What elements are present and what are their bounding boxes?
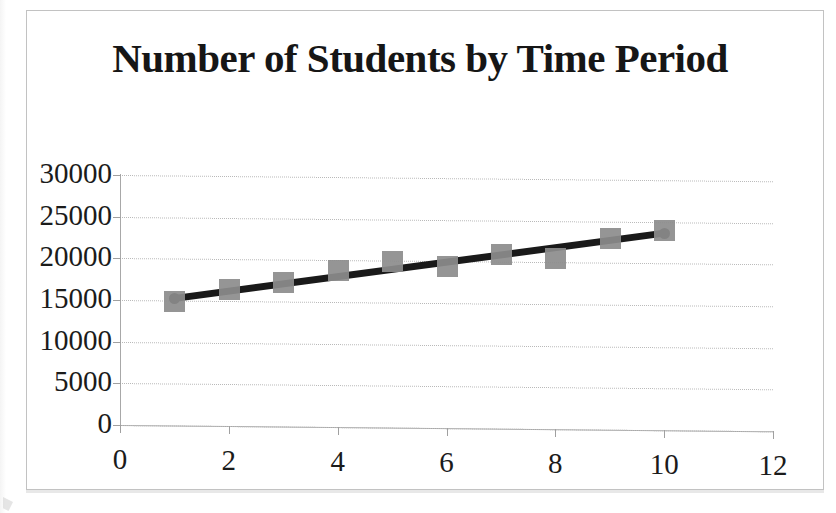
x-axis-tick	[229, 426, 230, 434]
data-point-marker	[545, 248, 566, 269]
data-point-marker	[328, 260, 349, 281]
data-point-marker	[437, 256, 458, 277]
data-point-marker	[491, 244, 512, 265]
y-axis-tick	[113, 175, 121, 176]
y-axis-tick	[113, 300, 121, 301]
y-axis-tick-label: 5000	[2, 367, 112, 396]
gridline	[120, 342, 773, 349]
data-point-marker	[382, 251, 403, 272]
y-axis-tick-label: 15000	[2, 284, 112, 313]
x-axis-tick-label: 6	[417, 448, 477, 477]
x-axis-tick	[664, 430, 665, 438]
data-point-marker	[273, 272, 294, 293]
data-point-marker	[600, 228, 621, 249]
gridline	[120, 175, 773, 182]
gridline	[120, 383, 773, 390]
gridline	[120, 300, 773, 307]
chart-title: Number of Students by Time Period	[70, 32, 770, 84]
y-axis-tick	[113, 258, 121, 259]
data-point-marker	[164, 291, 185, 312]
x-axis-tick	[338, 427, 339, 435]
y-axis-tick-label: 25000	[2, 201, 112, 230]
y-axis-tick	[113, 217, 121, 218]
chart-screenshot: Number of Students by Time Period 050001…	[0, 0, 836, 513]
data-point-marker	[219, 279, 240, 300]
y-axis-tick-label: 20000	[2, 242, 112, 271]
x-axis-tick	[120, 425, 121, 433]
data-point-marker	[654, 220, 675, 241]
y-axis-tick	[113, 342, 121, 343]
x-axis-tick	[447, 428, 448, 436]
y-axis-labels: 050001000015000200002500030000	[0, 0, 112, 513]
x-axis-tick	[555, 429, 556, 437]
x-axis-tick-label: 2	[199, 446, 259, 475]
x-axis-tick-label: 10	[634, 450, 694, 479]
x-axis-tick-label: 4	[308, 447, 368, 476]
x-axis-tick	[773, 431, 774, 439]
y-axis-tick-label: 30000	[2, 159, 112, 188]
y-axis-tick-label: 10000	[2, 326, 112, 355]
y-axis-tick-label: 0	[2, 409, 112, 438]
x-axis-tick-label: 0	[90, 445, 150, 474]
x-axis-tick-label: 8	[525, 449, 585, 478]
x-axis-tick-label: 12	[743, 451, 803, 480]
y-axis-tick	[113, 383, 121, 384]
